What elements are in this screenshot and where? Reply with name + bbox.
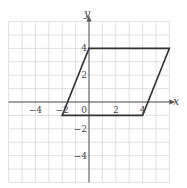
x-tick-label: 2	[113, 105, 119, 115]
x-tick-label: −4	[29, 105, 43, 115]
y-tick-label: 4	[81, 43, 87, 53]
x-tick-label: 4	[140, 105, 146, 115]
x-tick-label: −2	[56, 105, 69, 115]
y-tick-label: −4	[74, 151, 88, 161]
x-tick-label: 0	[81, 105, 87, 115]
y-tick-label: −2	[74, 124, 87, 134]
y-axis-label: y	[83, 7, 91, 20]
coordinate-plane: −4−202442−2−4 x y	[0, 0, 187, 188]
x-axis-label: x	[173, 95, 180, 108]
y-tick-label: 2	[81, 70, 87, 80]
axes	[9, 16, 176, 183]
